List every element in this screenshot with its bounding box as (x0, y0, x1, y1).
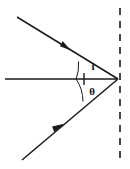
angle-label-theta: θ (89, 85, 95, 97)
reflection-diagram: i θ (0, 0, 130, 169)
diagram-canvas: i θ (0, 0, 130, 169)
angle-label-i: i (91, 60, 94, 72)
